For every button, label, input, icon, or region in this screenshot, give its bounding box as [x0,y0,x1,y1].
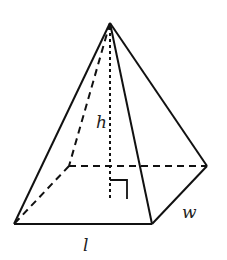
pyramid-diagram: h w l [0,0,227,260]
label-height: h [96,112,107,132]
label-length: l [83,235,88,255]
label-width: w [182,202,197,222]
edge-right-base [152,166,207,224]
hidden-edge-back-left-front-left [14,166,69,224]
right-angle-marker [110,180,127,199]
